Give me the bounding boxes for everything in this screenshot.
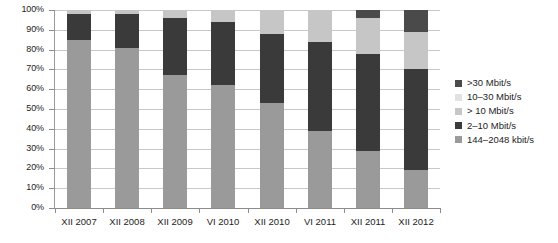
y-tick-label: 70% [0,64,44,73]
legend-item[interactable]: 2–10 Mbit/s [455,119,558,133]
legend-swatch-icon [455,136,462,143]
bar-segment [260,10,284,34]
x-tick-mark [199,208,200,213]
plot-area [55,10,440,208]
bar-segment [163,18,187,75]
legend-swatch-icon [455,80,462,87]
x-tick-label: XII 2009 [151,216,199,227]
bar-xii-2010[interactable] [260,10,284,208]
x-tick-mark [103,208,104,213]
bar-segment [67,40,91,208]
bar-segment [211,22,235,85]
bar-segment [211,85,235,208]
chart-legend: >30 Mbit/s10–30 Mbit/s> 10 Mbit/s2–10 Mb… [455,76,558,147]
bar-segment [404,170,428,208]
bar-segment [308,131,332,208]
y-tick-label: 90% [0,25,44,34]
y-tick-label: 80% [0,45,44,54]
bar-xii-2009[interactable] [163,10,187,208]
x-tick-mark [392,208,393,213]
bar-segment [356,151,380,208]
bar-segment [115,14,139,48]
legend-label: 144–2048 kbit/s [467,135,534,145]
x-tick-mark [440,208,441,213]
x-tick-label: XII 2012 [392,216,440,227]
bar-vi-2010[interactable] [211,10,235,208]
bar-segment [115,10,139,14]
bar-xii-2007[interactable] [67,10,91,208]
legend-swatch-icon [455,108,462,115]
bar-segment [356,18,380,54]
y-tick-label: 30% [0,144,44,153]
x-tick-mark [55,208,56,213]
bar-segment [163,75,187,208]
x-tick-mark [151,208,152,213]
legend-label: >30 Mbit/s [467,78,511,88]
bar-segment [115,48,139,208]
bar-segment [308,42,332,131]
bar-segment [404,32,428,70]
y-tick-label: 20% [0,163,44,172]
bar-segment [404,69,428,170]
legend-swatch-icon [455,122,462,129]
bar-xii-2008[interactable] [115,10,139,208]
legend-label: 10–30 Mbit/s [467,92,521,102]
x-tick-mark [296,208,297,213]
bar-xii-2011[interactable] [356,10,380,208]
bar-segment [404,10,428,32]
x-tick-mark [344,208,345,213]
y-tick-label: 60% [0,84,44,93]
stacked-bar-chart: 0%10%20%30%40%50%60%70%80%90%100% XII 20… [0,0,558,243]
legend-label: 2–10 Mbit/s [467,121,516,131]
bar-segment [308,10,332,42]
y-tick-label: 40% [0,124,44,133]
y-tick-label: 10% [0,183,44,192]
bar-segment [67,14,91,40]
y-tick-label: 50% [0,104,44,113]
x-tick-mark [248,208,249,213]
x-tick-label: XII 2008 [103,216,151,227]
legend-item[interactable]: 10–30 Mbit/s [455,90,558,104]
legend-label: > 10 Mbit/s [467,106,514,116]
legend-item[interactable]: > 10 Mbit/s [455,104,558,118]
bar-segment [163,10,187,18]
bar-xii-2012[interactable] [404,10,428,208]
bar-segment [211,10,235,22]
x-tick-label: XII 2011 [344,216,392,227]
bar-segment [356,10,380,18]
legend-swatch-icon [455,94,462,101]
bar-segment [260,103,284,208]
y-tick-label: 0% [0,203,44,212]
x-tick-label: VI 2010 [199,216,247,227]
y-tick-label: 100% [0,5,44,14]
x-tick-label: XII 2007 [55,216,103,227]
bar-segment [356,54,380,151]
x-tick-label: VI 2011 [296,216,344,227]
bar-segment [67,10,91,14]
legend-item[interactable]: >30 Mbit/s [455,76,558,90]
legend-item[interactable]: 144–2048 kbit/s [455,133,558,147]
x-tick-label: XII 2010 [248,216,296,227]
bar-segment [260,34,284,103]
bar-vi-2011[interactable] [308,10,332,208]
